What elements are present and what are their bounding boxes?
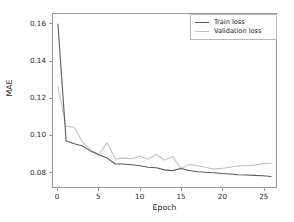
x-tick-mark: [140, 188, 141, 191]
legend-item-validation-loss: Validation loss: [195, 27, 272, 36]
y-tick-label: 0.08: [6, 169, 46, 176]
x-tick-label: 25: [244, 193, 284, 200]
line-validation-loss: [58, 86, 271, 169]
x-tick-label: 15: [161, 193, 201, 200]
y-tick-label: 0.16: [6, 20, 46, 27]
x-tick-label: 20: [202, 193, 242, 200]
y-tick-label: 0.10: [6, 131, 46, 138]
legend: Train loss Validation loss: [190, 14, 277, 40]
x-tick-mark: [222, 188, 223, 191]
chart-figure: 0.080.100.120.140.16 0510152025 Epoch MA…: [0, 0, 294, 222]
legend-label-validation-loss: Validation loss: [214, 27, 261, 36]
y-axis-label: MAE: [5, 80, 14, 97]
legend-item-train-loss: Train loss: [195, 18, 272, 27]
x-tick-label: 5: [78, 193, 118, 200]
legend-swatch-train-loss: [195, 22, 209, 23]
x-tick-mark: [57, 188, 58, 191]
y-tick-label: 0.14: [6, 57, 46, 64]
x-axis-label: Epoch: [52, 203, 277, 212]
x-tick-mark: [264, 188, 265, 191]
x-tick-label: 10: [120, 193, 160, 200]
line-train-loss: [58, 24, 271, 176]
x-tick-mark: [98, 188, 99, 191]
x-tick-mark: [181, 188, 182, 191]
x-tick-label: 0: [37, 193, 77, 200]
legend-label-train-loss: Train loss: [214, 18, 245, 27]
legend-swatch-validation-loss: [195, 31, 209, 32]
